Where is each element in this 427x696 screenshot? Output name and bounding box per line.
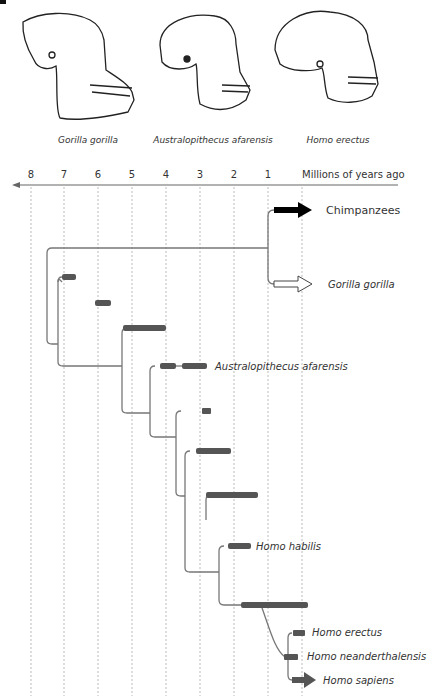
svg-text:6: 6	[95, 169, 101, 180]
svg-text:8: 8	[28, 169, 34, 180]
svg-text:4: 4	[163, 169, 169, 180]
sapiens-arrow-icon	[292, 672, 316, 688]
label-gorilla: Gorilla gorilla	[328, 279, 395, 290]
svg-text:2: 2	[231, 169, 237, 180]
label-homo-erectus: Homo erectus	[312, 627, 382, 638]
bar-orrorin	[95, 300, 111, 306]
bar-habilis	[228, 543, 251, 549]
corner-mark	[0, 0, 6, 4]
axis-ticks: 8 7 6 5 4 3 2 1	[28, 169, 271, 180]
skull-caption-gorilla: Gorilla gorilla	[58, 135, 118, 145]
bar-early-homo	[241, 602, 308, 608]
bar-sahelanthropus	[62, 274, 76, 280]
bar-anamensis	[160, 363, 176, 369]
skull-caption-australopithecus: Australopithecus afarensis	[152, 135, 273, 145]
gorilla-arrow-icon	[274, 276, 312, 292]
australopithecus-skull-icon	[160, 15, 250, 109]
label-chimpanzees: Chimpanzees	[326, 204, 400, 217]
skull-caption-erectus: Homo erectus	[306, 135, 369, 145]
svg-text:1: 1	[265, 169, 271, 180]
bar-erectus	[293, 630, 305, 636]
label-homo-neanderthalensis: Homo neanderthalensis	[307, 651, 426, 662]
chimp-arrow-icon	[274, 202, 312, 218]
homo-erectus-skull-icon	[275, 11, 378, 102]
axis-arrow-icon	[12, 182, 20, 188]
bar-neanderthal	[284, 654, 298, 660]
bar-platyops	[202, 408, 211, 414]
svg-text:5: 5	[129, 169, 135, 180]
bar-africanus	[196, 448, 231, 454]
svg-text:7: 7	[61, 169, 67, 180]
label-homo-sapiens: Homo sapiens	[323, 675, 394, 686]
gorilla-skull-icon	[23, 13, 134, 119]
bar-afarensis	[182, 363, 207, 369]
time-gridlines	[31, 187, 302, 696]
hominid-phylogeny-diagram: Gorilla gorilla Australopithecus afarens…	[0, 0, 427, 696]
bar-ardipithecus	[123, 325, 166, 331]
label-homo-habilis: Homo habilis	[256, 541, 321, 552]
tree-branches	[47, 210, 292, 680]
svg-text:3: 3	[197, 169, 203, 180]
axis-title: Millions of years ago	[302, 169, 405, 180]
bar-paranthropus	[206, 492, 258, 498]
label-australopithecus: Australopithecus afarensis	[214, 361, 348, 372]
